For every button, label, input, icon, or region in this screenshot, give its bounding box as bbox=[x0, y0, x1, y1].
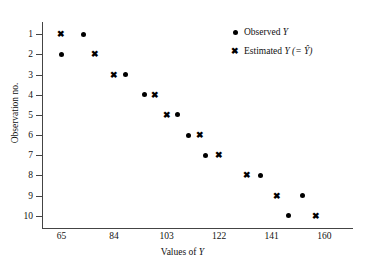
x-tick-label: 141 bbox=[252, 229, 292, 242]
filled-circle-icon bbox=[142, 92, 147, 97]
x-tick-label-wrap: 122 bbox=[199, 229, 239, 242]
x-tick-label: 84 bbox=[94, 229, 134, 242]
x-tick-label: 65 bbox=[41, 229, 81, 242]
filled-circle-icon bbox=[81, 32, 86, 37]
x-tick-label-wrap: 65 bbox=[41, 229, 81, 242]
legend-item-observed: Observed Y bbox=[228, 22, 360, 41]
cross-icon: ✖ bbox=[273, 192, 281, 200]
y-tick-label-wrap: 5 bbox=[0, 110, 42, 120]
x-axis-title-prefix: Values of bbox=[161, 247, 199, 257]
cross-icon: ✖ bbox=[151, 91, 159, 99]
filled-circle-icon bbox=[228, 26, 244, 38]
y-axis-title: Observation no. bbox=[10, 53, 20, 173]
filled-circle-icon bbox=[175, 112, 180, 117]
legend-label-estimated: Estimated Y (= Ŷ) bbox=[244, 45, 312, 57]
filled-circle-icon bbox=[300, 193, 305, 198]
cross-icon: ✖ bbox=[228, 45, 244, 57]
y-tick-label: 10 bbox=[5, 211, 33, 221]
x-axis-title-variable: Y bbox=[199, 247, 204, 257]
x-tick-label-wrap: 103 bbox=[147, 229, 187, 242]
chart-figure: 12345678910 6584103122141160 ✖✖✖✖✖✖✖✖✖✖ … bbox=[0, 0, 365, 265]
legend: Observed Y ✖ Estimated Y (= Ŷ) bbox=[228, 22, 360, 60]
y-tick-label-wrap: 7 bbox=[0, 150, 42, 160]
y-tick-label-wrap: 2 bbox=[0, 49, 42, 59]
legend-observed-prefix: Observed bbox=[244, 27, 283, 37]
y-tick-label-wrap: 10 bbox=[0, 211, 42, 221]
filled-circle-icon bbox=[258, 173, 263, 178]
x-tick-label-wrap: 160 bbox=[304, 229, 344, 242]
cross-icon: ✖ bbox=[196, 131, 204, 139]
cross-icon: ✖ bbox=[57, 30, 65, 38]
cross-icon: ✖ bbox=[110, 71, 118, 79]
y-tick-label-wrap: 6 bbox=[0, 130, 42, 140]
x-tick-label-wrap: 141 bbox=[252, 229, 292, 242]
cross-icon: ✖ bbox=[243, 171, 251, 179]
legend-item-estimated: ✖ Estimated Y (= Ŷ) bbox=[228, 41, 360, 60]
filled-circle-icon bbox=[186, 133, 191, 138]
filled-circle-icon bbox=[203, 153, 208, 158]
legend-observed-variable: Y bbox=[283, 27, 288, 37]
y-tick-label: 9 bbox=[5, 191, 33, 201]
filled-circle-icon bbox=[286, 213, 291, 218]
x-tick-label: 122 bbox=[199, 229, 239, 242]
y-tick-label-wrap: 1 bbox=[0, 29, 42, 39]
y-tick-label-wrap: 3 bbox=[0, 70, 42, 80]
legend-estimated-suffix: (= Ŷ) bbox=[290, 46, 313, 56]
y-axis-title-text: Observation no. bbox=[10, 83, 20, 144]
y-tick-label-wrap: 4 bbox=[0, 90, 42, 100]
filled-circle-icon bbox=[123, 72, 128, 77]
cross-icon: ✖ bbox=[215, 151, 223, 159]
cross-icon: ✖ bbox=[91, 50, 99, 58]
cross-icon: ✖ bbox=[163, 111, 171, 119]
cross-icon: ✖ bbox=[312, 212, 320, 220]
legend-estimated-prefix: Estimated bbox=[244, 46, 284, 56]
legend-label-observed: Observed Y bbox=[244, 26, 288, 38]
x-axis-title: Values of Y bbox=[0, 247, 365, 257]
x-tick-label: 160 bbox=[304, 229, 344, 242]
x-tick-label-wrap: 84 bbox=[94, 229, 134, 242]
y-tick-label-wrap: 8 bbox=[0, 170, 42, 180]
y-tick-label: 1 bbox=[5, 29, 33, 39]
filled-circle-icon bbox=[59, 52, 64, 57]
x-tick-label: 103 bbox=[147, 229, 187, 242]
y-tick-label-wrap: 9 bbox=[0, 191, 42, 201]
